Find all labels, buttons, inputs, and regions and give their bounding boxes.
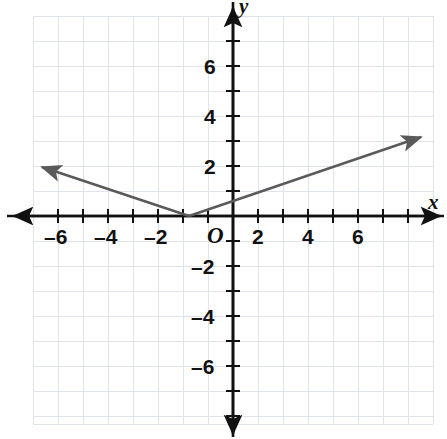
- y-tick-label-4: 4: [204, 106, 216, 127]
- y-tick-label-6: 6: [204, 56, 216, 77]
- x-tick-label--2: –2: [144, 226, 167, 247]
- x-tick-label-4: 4: [302, 226, 314, 247]
- x-tick-label--4: –4: [94, 226, 117, 247]
- graph-right-ray: [189, 137, 421, 216]
- graph-figure: –6 –4 –2 2 4 6 6 4 2 –2 –4 –6 O x y: [0, 0, 447, 439]
- y-tick-label--2: –2: [191, 256, 214, 277]
- y-tick-label--6: –6: [191, 356, 214, 377]
- origin-label: O: [207, 224, 224, 247]
- x-tick-label-2: 2: [252, 226, 264, 247]
- x-tick-label--6: –6: [44, 226, 67, 247]
- y-tick-label-2: 2: [204, 156, 216, 177]
- absolute-value-graph: [42, 137, 421, 216]
- x-tick-label-6: 6: [352, 226, 364, 247]
- x-axis-label: x: [428, 192, 439, 213]
- y-axis-label: y: [239, 0, 248, 17]
- coordinate-plane-svg: [0, 0, 447, 439]
- y-tick-label--4: –4: [191, 306, 214, 327]
